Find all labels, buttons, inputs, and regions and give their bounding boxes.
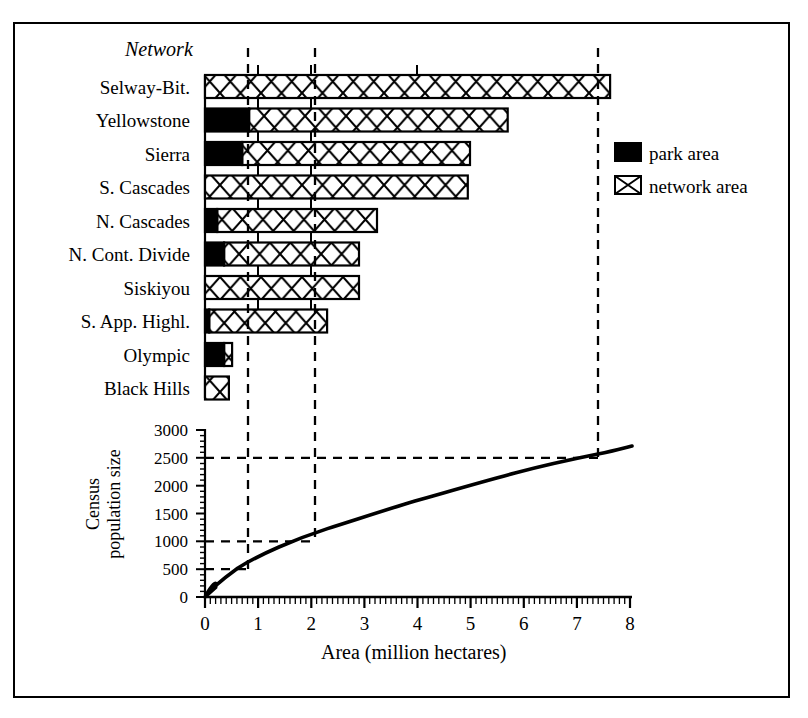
xtick-0: 0 <box>200 614 210 633</box>
bar-label-n-cont-divide: N. Cont. Divide <box>69 245 190 264</box>
bar-row <box>205 75 610 98</box>
bar-label-n-cascades: N. Cascades <box>96 211 190 230</box>
bar-network-yellowstone <box>249 109 508 132</box>
y-axis-title-line1: Census <box>83 414 104 594</box>
legend-label-network-area: network area <box>649 177 748 196</box>
legend-swatch-park-area <box>615 143 641 161</box>
ytick-1000: 1000 <box>154 533 188 550</box>
ytick-3000: 3000 <box>154 422 188 439</box>
x-axis-title: Area (million hectares) <box>321 642 506 662</box>
bar-network-selway-bit <box>205 75 610 98</box>
bar-row <box>205 176 468 199</box>
bar-row <box>205 209 377 232</box>
bar-network-black-hills <box>205 377 229 400</box>
bar-label-sierra: Sierra <box>145 144 190 163</box>
bar-row <box>205 343 232 366</box>
bar-network-n-cont-divide <box>224 243 359 266</box>
bar-park-n-cont-divide <box>205 243 224 266</box>
bar-network-n-cascades <box>217 209 377 232</box>
bar-row <box>205 276 359 299</box>
xtick-5: 5 <box>466 614 476 633</box>
bar-row <box>205 109 508 132</box>
y-axis-title: Census population size <box>83 414 125 594</box>
bar-label-olympic: Olympic <box>124 345 191 364</box>
legend-label-park-area: park area <box>649 144 719 163</box>
bar-label-s-cascades: S. Cascades <box>99 178 190 197</box>
bar-label-black-hills: Black Hills <box>104 379 190 398</box>
ytick-1500: 1500 <box>154 505 188 522</box>
bar-label-s-app-highl: S. App. Highl. <box>81 312 190 331</box>
bar-label-yellowstone: Yellowstone <box>96 111 190 130</box>
bar-panel <box>205 65 610 400</box>
bar-network-siskiyou <box>205 276 359 299</box>
legend-swatches <box>613 140 643 210</box>
bar-network-s-app-highl <box>209 310 327 333</box>
xtick-7: 7 <box>572 614 582 633</box>
ytick-2500: 2500 <box>154 449 188 466</box>
xtick-4: 4 <box>413 614 423 633</box>
xtick-2: 2 <box>307 614 317 633</box>
bar-park-s-app-highl <box>205 310 209 333</box>
bar-row <box>205 310 327 333</box>
xtick-3: 3 <box>360 614 370 633</box>
ytick-2000: 2000 <box>154 477 188 494</box>
figure-frame: Network Selway-Bit. Yellowstone Sierra S… <box>13 22 790 698</box>
bar-park-sierra <box>205 142 242 165</box>
bar-row <box>205 377 229 400</box>
xtick-1: 1 <box>253 614 263 633</box>
ytick-500: 500 <box>163 561 189 578</box>
xtick-6: 6 <box>519 614 529 633</box>
species-area-curve <box>205 446 632 597</box>
bar-row <box>205 142 470 165</box>
y-axis-title-line2: population size <box>104 414 125 594</box>
xtick-8: 8 <box>625 614 635 633</box>
bar-park-olympic <box>205 343 224 366</box>
bar-label-siskiyou: Siskiyou <box>123 278 190 297</box>
bar-network-sierra <box>242 142 470 165</box>
network-column-header: Network <box>125 39 193 59</box>
bar-park-yellowstone <box>205 109 249 132</box>
bar-park-n-cascades <box>205 209 217 232</box>
bar-row <box>205 243 359 266</box>
ytick-0: 0 <box>180 589 189 606</box>
bar-label-selway-bit: Selway-Bit. <box>100 77 190 96</box>
bar-network-olympic <box>224 343 232 366</box>
curve-y-ticks <box>196 430 205 597</box>
bar-network-s-cascades <box>205 176 468 199</box>
